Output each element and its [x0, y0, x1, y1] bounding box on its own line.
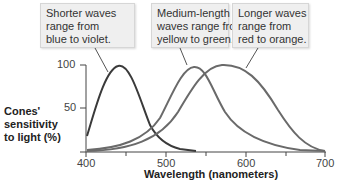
x-ticks: [86, 152, 325, 157]
y-axis-label: Cones' sensitivity to light (%): [4, 105, 61, 144]
callout-text-line: Medium-length: [157, 7, 223, 20]
callout-text-line: Shorter waves: [46, 7, 129, 20]
callout-pointer-long: [246, 48, 258, 68]
long-wave-curve: [87, 65, 325, 151]
callout-text-line: yellow to green.: [157, 33, 223, 46]
y-tick-label-50: 50: [64, 101, 76, 113]
x-tick-label-700: 700: [316, 157, 334, 169]
callout-pointer-short: [95, 48, 108, 72]
y-axis-label-line: Cones': [4, 105, 61, 118]
callout-text-line: Longer waves: [238, 7, 303, 20]
callout-text-line: waves range from: [157, 20, 223, 33]
y-axis-label-line: to light (%): [4, 131, 61, 144]
x-axis-label: Wavelength (nanometers): [144, 168, 278, 180]
y-axis-label-line: sensitivity: [4, 118, 61, 131]
callout-pointer-medium: [180, 48, 187, 65]
callout-medium-waves: Medium-length waves range from yellow to…: [151, 3, 229, 48]
callout-long-waves: Longer waves range from red to orange.: [232, 3, 309, 48]
medium-wave-curve: [87, 67, 325, 151]
callout-text-line: range from: [46, 20, 129, 33]
callout-text-line: blue to violet.: [46, 33, 129, 46]
callout-text-line: range from: [238, 20, 303, 33]
callout-short-waves: Shorter waves range from blue to violet.: [40, 3, 135, 48]
y-tick-label-100: 100: [57, 58, 75, 70]
x-tick-label-400: 400: [77, 157, 95, 169]
callout-text-line: red to orange.: [238, 33, 303, 46]
